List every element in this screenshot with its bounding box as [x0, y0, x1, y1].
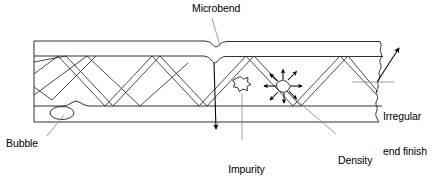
scatter-arrow-ne: [288, 72, 297, 81]
scatter-arrow-sw: [270, 92, 278, 100]
label-impurity: Impurity (absorption): [219, 141, 274, 183]
microbend-leaked-ray-arrow: [214, 63, 216, 129]
microbend-escaping-ray: [214, 63, 216, 129]
end-finish-refracted-ray: [377, 48, 399, 82]
label-endfinish-line2: end finish: [383, 146, 427, 158]
label-irregular-end-finish: Irregular end finish: [383, 88, 427, 180]
label-bubble: Bubble: [6, 138, 38, 150]
label-endfinish-line1: Irregular: [383, 111, 427, 123]
leader-microbend: [212, 18, 220, 46]
guided-ray-paths: [34, 56, 378, 106]
fiber-cladding-outline: [34, 41, 380, 122]
label-microbend: Microbend: [192, 3, 240, 15]
core-top-boundary: [34, 56, 383, 63]
label-impurity-line1: Impurity: [219, 164, 274, 176]
end-finish-exit-ray-arrow: [377, 48, 399, 82]
fiber-core-boundaries: [34, 56, 383, 106]
impurity-blob: [233, 77, 252, 92]
ray-path-c: [34, 56, 188, 106]
fiber-loss-diagram: Microbend Bubble Impurity (absorption) D…: [0, 0, 437, 183]
cladding-top-edge: [34, 41, 380, 47]
label-density-line1: Density: [338, 155, 389, 167]
label-density-change: Density change (scattering): [338, 132, 389, 183]
leader-density-change: [288, 93, 336, 134]
scatter-arrow-nw: [270, 74, 278, 81]
